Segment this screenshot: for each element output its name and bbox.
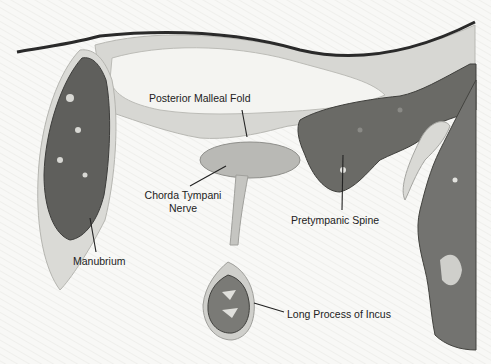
label-chorda-tympani-nerve: Chorda Tympani Nerve [131,189,235,215]
tissue-section [0,0,491,364]
label-chorda-tympani-line2: Nerve [131,202,235,215]
histology-figure: Posterior Malleal Fold Chorda Tympani Ne… [0,0,491,364]
label-chorda-tympani-line1: Chorda Tympani [131,189,235,202]
label-pretympanic-spine: Pretympanic Spine [291,214,379,227]
label-long-process-of-incus: Long Process of Incus [287,308,391,321]
label-posterior-malleal-fold: Posterior Malleal Fold [149,92,251,105]
label-manubrium: Manubrium [73,255,126,268]
